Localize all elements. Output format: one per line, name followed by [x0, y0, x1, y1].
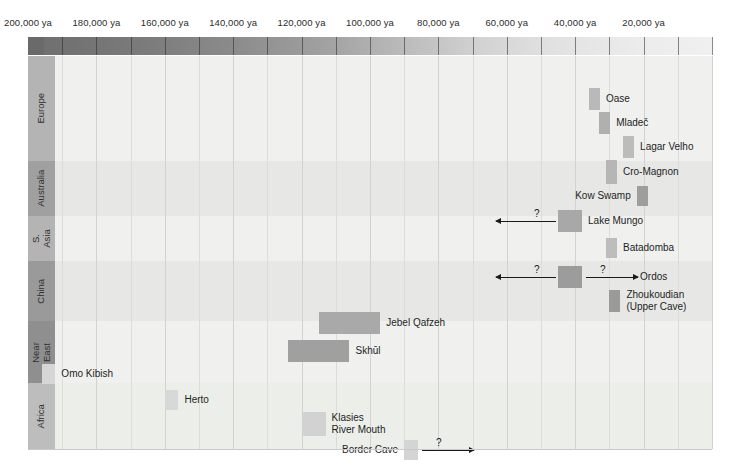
gradient-tick	[609, 37, 610, 55]
gridline	[507, 56, 508, 449]
site-bar-jebel-qafzeh[interactable]	[319, 312, 381, 334]
gradient-tick	[712, 37, 713, 55]
gradient-tick	[473, 37, 474, 55]
axis-tick-label-top: 20,000 ya	[622, 17, 665, 28]
region-label-text: S. Asia	[31, 229, 52, 247]
region-label-s--asia: S. Asia	[28, 216, 55, 261]
gradient-tick	[199, 37, 200, 55]
site-label-oase: Oase	[606, 93, 630, 105]
gridline	[199, 56, 200, 449]
site-label-ordos: Ordos	[640, 271, 667, 283]
gridline	[370, 56, 371, 449]
gridline	[575, 56, 576, 449]
region-label-australia: Australia	[28, 161, 55, 216]
site-bar-zhoukoudian[interactable]	[609, 290, 620, 312]
axis-tick-label-top: 60,000 ya	[485, 17, 528, 28]
arrow-head-right	[633, 274, 639, 280]
gridline	[678, 56, 679, 449]
gridline	[473, 56, 474, 449]
axis-tick-label-top: 80,000 ya	[417, 17, 460, 28]
gridline	[62, 56, 63, 449]
gradient-tick	[507, 37, 508, 55]
site-bar-ordos[interactable]	[558, 266, 582, 288]
axis-tick-label-top: 120,000 ya	[278, 17, 326, 28]
axis-tick-label-top: 100,000 ya	[346, 17, 394, 28]
region-label-china: China	[28, 261, 55, 321]
site-label-cro-magnon: Cro-Magnon	[623, 166, 679, 178]
site-bar-skh-l[interactable]	[288, 340, 350, 362]
uncertainty-arrow-left-lake-mungo	[496, 221, 556, 222]
gridline	[712, 56, 713, 449]
gradient-tick	[96, 37, 97, 55]
site-bar-cro-magnon[interactable]	[606, 160, 617, 184]
gradient-tick	[438, 37, 439, 55]
site-bar-omo-kibish[interactable]	[42, 364, 56, 384]
plot-area: EuropeAustraliaS. AsiaChinaNear EastAfri…	[28, 56, 712, 449]
uncertainty-qmark-right-border-cave: ?	[436, 437, 442, 448]
site-label-zhoukoudian: Zhoukoudian (Upper Cave)	[626, 289, 686, 312]
gradient-tick	[302, 37, 303, 55]
site-bar-lake-mungo[interactable]	[558, 210, 582, 232]
arrow-head-left	[495, 274, 501, 280]
time-gradient-bar-left-cap	[28, 37, 44, 55]
region-label-europe: Europe	[28, 56, 55, 161]
gradient-tick	[644, 37, 645, 55]
gradient-tick	[62, 37, 63, 55]
gridline	[267, 56, 268, 449]
uncertainty-qmark-right-ordos: ?	[600, 264, 606, 275]
time-gradient-bar	[28, 37, 712, 55]
gridline	[541, 56, 542, 449]
site-bar-mlade-[interactable]	[599, 112, 610, 134]
site-label-kow-swamp: Kow Swamp	[575, 190, 631, 202]
arrow-head-right	[469, 447, 475, 453]
plot-bottom-border	[28, 449, 712, 450]
uncertainty-qmark-left-ordos: ?	[534, 264, 540, 275]
site-label-omo-kibish: Omo Kibish	[61, 368, 113, 380]
gridline	[302, 56, 303, 449]
gradient-tick	[541, 37, 542, 55]
site-label-lagar-velho: Lagar Velho	[640, 141, 693, 153]
site-bar-lagar-velho[interactable]	[623, 136, 634, 158]
region-label-text: Australia	[36, 170, 47, 207]
gradient-tick	[131, 37, 132, 55]
gridline	[404, 56, 405, 449]
gridline	[96, 56, 97, 449]
region-label-text: Near East	[31, 342, 52, 363]
site-bar-oase[interactable]	[589, 88, 600, 110]
site-label-jebel-qafzeh: Jebel Qafzeh	[386, 317, 445, 329]
site-label-herto: Herto	[184, 394, 208, 406]
site-label-batadomba: Batadomba	[623, 242, 674, 254]
gradient-tick	[336, 37, 337, 55]
axis-tick-label-top: 140,000 ya	[209, 17, 257, 28]
site-bar-border-cave[interactable]	[404, 440, 418, 460]
site-bar-klasies[interactable]	[302, 412, 326, 436]
uncertainty-qmark-left-lake-mungo: ?	[534, 208, 540, 219]
gridline	[336, 56, 337, 449]
arrow-head-left	[495, 218, 501, 224]
site-label-skh-l: Skhūl	[355, 345, 380, 357]
gradient-tick	[404, 37, 405, 55]
uncertainty-arrow-right-border-cave	[422, 450, 474, 451]
gradient-tick	[678, 37, 679, 55]
region-label-text: China	[36, 279, 47, 304]
axis-tick-label-top: 40,000 ya	[554, 17, 597, 28]
site-label-klasies: Klasies River Mouth	[332, 412, 386, 435]
axis-tick-label-top: 180,000 ya	[72, 17, 120, 28]
gridline	[233, 56, 234, 449]
site-bar-herto[interactable]	[165, 390, 179, 410]
gradient-tick	[267, 37, 268, 55]
region-label-text: Africa	[36, 404, 47, 428]
gridline	[131, 56, 132, 449]
gradient-tick	[233, 37, 234, 55]
region-label-strip: EuropeAustraliaS. AsiaChinaNear EastAfri…	[28, 56, 55, 449]
site-label-lake-mungo: Lake Mungo	[588, 215, 643, 227]
axis-tick-label-top: 160,000 ya	[141, 17, 189, 28]
gridline	[438, 56, 439, 449]
gradient-tick	[575, 37, 576, 55]
axis-tick-label-top: 200,000 ya	[4, 17, 52, 28]
site-bar-kow-swamp[interactable]	[637, 186, 648, 206]
site-bar-batadomba[interactable]	[606, 238, 617, 258]
site-label-mlade-: Mladeč	[616, 117, 648, 129]
gradient-tick	[165, 37, 166, 55]
timeline-chart: 200,000 ya180,000 ya160,000 ya140,000 ya…	[0, 0, 740, 472]
